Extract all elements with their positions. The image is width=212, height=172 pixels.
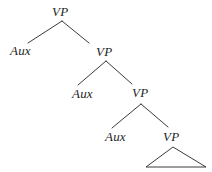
node-label-aux1: Aux	[10, 44, 31, 57]
tree-branch-b1-right	[62, 21, 89, 43]
tree-branch-b3-left	[112, 104, 141, 128]
tree-branch-b1-left	[28, 21, 62, 43]
node-label-aux3: Aux	[105, 130, 126, 143]
syntax-tree-figure: VP Aux VP Aux VP Aux VP	[0, 0, 212, 172]
tree-branches-canvas	[0, 0, 212, 172]
node-label-vp4: VP	[163, 130, 179, 143]
tree-branch-b3-right	[141, 104, 168, 127]
node-label-vp1: VP	[52, 5, 68, 18]
node-label-vp2: VP	[96, 45, 112, 58]
tree-branch-b2-right	[106, 61, 132, 84]
node-label-vp3: VP	[132, 86, 148, 99]
tree-branch-b2-left	[78, 61, 106, 85]
vp4-triangle-icon	[146, 147, 206, 167]
node-label-aux2: Aux	[72, 87, 93, 100]
